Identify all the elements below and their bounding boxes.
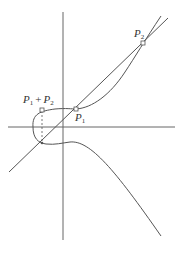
label-p1-plus-p2: P1+P2 — [22, 93, 54, 107]
point-sum-marker — [40, 108, 44, 112]
point-reflection-marker — [41, 142, 44, 145]
point-p2-marker — [141, 41, 145, 45]
label-p1: P1 — [74, 111, 86, 125]
label-p2: P2 — [133, 27, 145, 41]
curve-lower-branch — [33, 127, 161, 236]
elliptic-curve-diagram: P1 P2 P1+P2 — [0, 0, 177, 254]
